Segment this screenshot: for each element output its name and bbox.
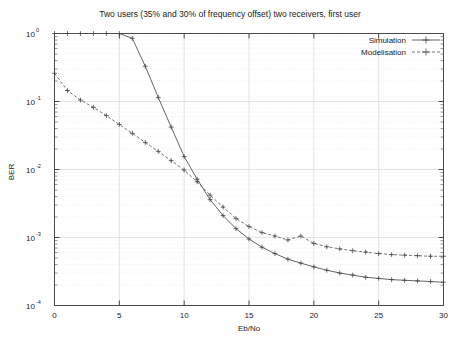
legend-label-modelisation: Modelisation [361, 48, 406, 57]
y-axis-label: BER [7, 164, 16, 181]
x-tick-label: 5 [117, 311, 122, 320]
svg-text:10: 10 [26, 234, 35, 243]
legend-label-simulation: Simulation [369, 36, 406, 45]
svg-text:10: 10 [26, 302, 35, 311]
svg-text:-3: -3 [36, 231, 41, 237]
ber-chart: Two users (35% and 30% of frequency offs… [0, 0, 461, 348]
x-tick-label: 10 [180, 311, 189, 320]
svg-text:10: 10 [26, 30, 35, 39]
svg-text:10: 10 [26, 98, 35, 107]
x-tick-label: 0 [52, 311, 57, 320]
chart-title: Two users (35% and 30% of frequency offs… [99, 9, 361, 19]
svg-text:-4: -4 [36, 299, 41, 305]
x-tick-label: 20 [309, 311, 318, 320]
x-tick-label: 15 [245, 311, 254, 320]
x-tick-label: 30 [439, 311, 448, 320]
svg-text:-1: -1 [36, 95, 41, 101]
svg-text:0: 0 [36, 27, 39, 33]
svg-text:10: 10 [26, 166, 35, 175]
x-tick-label: 25 [374, 311, 383, 320]
svg-text:-2: -2 [36, 163, 41, 169]
x-axis-label: Eb/No [238, 324, 261, 333]
